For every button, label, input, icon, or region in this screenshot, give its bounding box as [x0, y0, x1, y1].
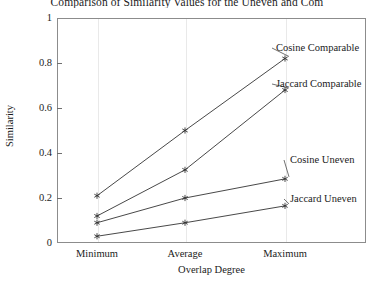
chart-title: Comparison of Similarity Values for the … — [0, 0, 374, 8]
x-tick-label-maximum: Maximum — [240, 248, 330, 260]
y-tick-label-0.8: 0.8 — [18, 57, 52, 68]
series-label-cosine-uneven: Cosine Uneven — [290, 154, 354, 166]
y-tick-mark-0.2 — [57, 198, 62, 199]
x-tick-label-minimum: Minimum — [52, 248, 142, 260]
y-tick-label-1: 1 — [18, 12, 52, 23]
x-axis-title: Overlap Degree — [57, 264, 366, 276]
gridline-average — [186, 19, 187, 242]
series-label-cosine-comparable: Cosine Comparable — [276, 42, 359, 54]
series-label-jaccard-uneven: Jaccard Uneven — [290, 193, 357, 205]
similarity-line-chart: Comparison of Similarity Values for the … — [0, 0, 374, 282]
x-tick-label-average: Average — [140, 248, 230, 260]
y-tick-mark-0.8 — [57, 63, 62, 64]
y-tick-label-0.4: 0.4 — [18, 147, 52, 158]
gridline-minimum — [98, 19, 99, 242]
y-tick-mark-0.4 — [57, 153, 62, 154]
y-tick-mark-0.6 — [57, 108, 62, 109]
y-tick-label-0.2: 0.2 — [18, 192, 52, 203]
y-tick-label-0.6: 0.6 — [18, 102, 52, 113]
y-axis-title: Similarity — [4, 91, 16, 161]
y-tick-label-0: 0 — [18, 237, 52, 248]
series-label-jaccard-comparable: Jaccard Comparable — [276, 78, 361, 90]
